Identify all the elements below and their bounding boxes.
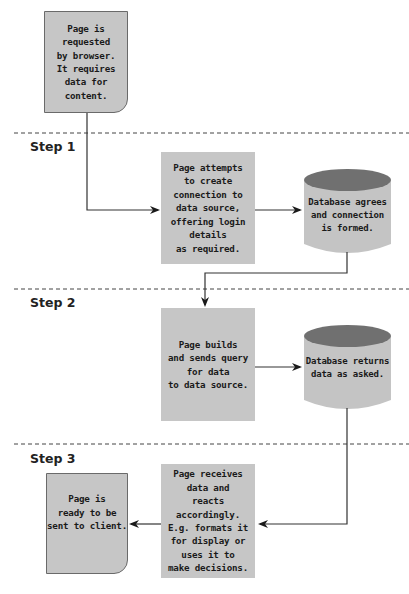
step-2-label: Step 2 — [30, 295, 75, 310]
step2-db-label: Database returns data as asked. — [304, 350, 391, 386]
step1-page-box: Page attempts to create connection to da… — [161, 152, 255, 264]
step2-db-text: Database returns data as asked. — [306, 355, 390, 381]
start-page-document: Page is requested by browser. It require… — [44, 11, 128, 113]
end-page-document: Page is ready to be sent to client. — [46, 473, 128, 574]
step3-page-box: Page receives data and reacts accordingl… — [161, 464, 255, 578]
arrow-start-to-step1 — [87, 112, 158, 210]
start-page-text: Page is requested by browser. It require… — [57, 22, 116, 102]
step1-page-text: Page attempts to create connection to da… — [171, 161, 246, 255]
step1-db-text: Database agrees and connection is formed… — [308, 196, 386, 235]
step-3-label: Step 3 — [30, 451, 75, 466]
step2-page-text: Page builds and sends query for data to … — [168, 338, 248, 392]
step-1-label: Step 1 — [30, 139, 75, 154]
step2-page-box: Page builds and sends query for data to … — [161, 308, 255, 421]
step1-db-label: Database agrees and connection is formed… — [304, 192, 391, 238]
step3-page-text: Page receives data and reacts accordingl… — [161, 467, 255, 574]
end-page-text: Page is ready to be sent to client. — [47, 492, 127, 532]
arrow-db2-to-step3 — [260, 408, 347, 524]
